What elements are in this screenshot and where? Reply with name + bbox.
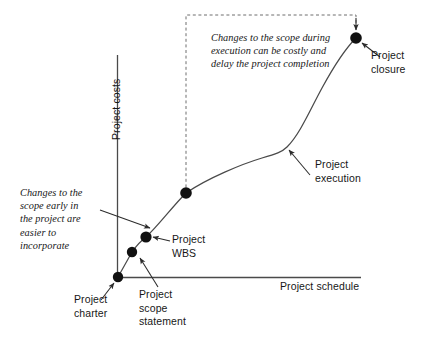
- milestone-dot-project-execution[interactable]: [180, 187, 192, 199]
- annotation-execution-scope-changes: Changes to the scope during execution ca…: [211, 31, 330, 71]
- x-axis-label: Project schedule: [280, 280, 359, 292]
- leader-line-project-wbs: [153, 237, 170, 241]
- milestone-label-project-closure: Project closure: [371, 49, 406, 76]
- milestone-label-project-execution: Project execution: [315, 158, 361, 185]
- annotation-early-scope-changes: Changes to the scope early in the projec…: [20, 186, 82, 252]
- milestone-dot-project-wbs[interactable]: [140, 231, 151, 242]
- milestone-dot-project-closure[interactable]: [350, 32, 362, 44]
- milestone-label-project-scope-statement: Project scope statement: [139, 288, 186, 329]
- project-cost-curve-diagram: Project costs Project schedule Changes t…: [0, 0, 434, 340]
- leader-line-project-execution: [289, 150, 310, 175]
- milestone-dot-project-scope-statement[interactable]: [127, 247, 137, 257]
- y-axis-label: Project costs: [110, 79, 122, 140]
- milestone-label-project-charter: Project charter: [74, 293, 107, 320]
- leader-line-project-scope-statement: [140, 258, 158, 287]
- milestone-label-project-wbs: Project WBS: [172, 233, 205, 260]
- leader-line-early-scope-note: [100, 210, 150, 228]
- milestone-dot-project-charter[interactable]: [113, 272, 123, 282]
